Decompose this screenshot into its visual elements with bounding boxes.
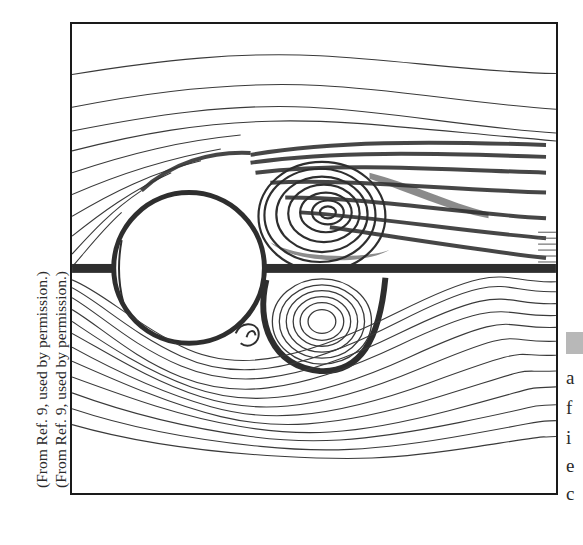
streamline-diagram: [72, 24, 556, 493]
lower-vortex-boundary: [263, 278, 385, 371]
figure-credit-line-2: (From Ref. 9, used by permission.): [52, 271, 70, 488]
streamline-figure: [70, 22, 558, 495]
secondary-eddy: [236, 324, 259, 345]
upper-vortex: [258, 162, 385, 271]
figure-credit-line-1: (From Ref. 9, used by permission.): [33, 271, 51, 488]
cylinder: [114, 193, 265, 344]
cropped-caption-letter: a: [566, 368, 574, 387]
cropped-caption-letter: c: [566, 484, 574, 503]
cropped-caption-letter: e: [566, 456, 574, 475]
cropped-caption-letter: f: [566, 398, 572, 417]
caption-marker: [566, 332, 583, 354]
lower-vortex: [272, 279, 371, 364]
cropped-caption-letter: i: [566, 428, 571, 447]
